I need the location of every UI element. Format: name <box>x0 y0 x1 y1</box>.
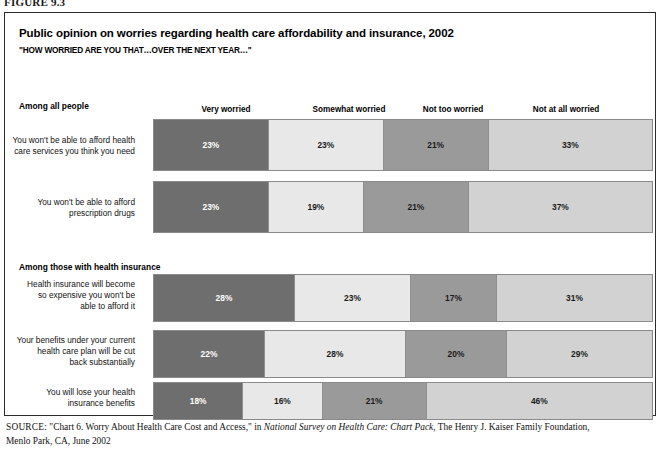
bar-row: 22%28%20%29% <box>153 330 653 378</box>
column-header-0: Very worried <box>201 105 250 114</box>
bar-row-label-line: insurance benefits <box>0 398 135 409</box>
bar-segment-value: 19% <box>307 202 324 212</box>
source-label: SOURCE: <box>6 422 47 432</box>
bar-segment-value: 28% <box>327 349 344 359</box>
bar-row-label: Health insurance will becomeso expensive… <box>0 279 135 313</box>
bar-row-label-line: health care plan will be cut <box>0 346 135 357</box>
bar-row-label-line: Your benefits under your current <box>0 335 135 346</box>
bar-segment-value: 18% <box>190 396 207 406</box>
bar-segment-1: 28% <box>264 331 405 377</box>
bar-segment-3: 37% <box>468 182 652 232</box>
bar-row: 18%16%21%46% <box>153 382 653 420</box>
bar-segment-value: 23% <box>203 202 220 212</box>
bar-segment-2: 21% <box>383 120 488 170</box>
bar-row-label-line: You will lose your health <box>0 387 135 398</box>
bar-segment-value: 23% <box>344 293 361 303</box>
bar-segment-value: 31% <box>566 293 583 303</box>
bar-segment-0: 22% <box>154 331 264 377</box>
bar-segment-value: 23% <box>317 140 334 150</box>
bar-segment-3: 29% <box>506 331 652 377</box>
section-header-insured: Among those with health insurance <box>19 262 160 272</box>
bar-row-label: You won't be able to affordprescription … <box>0 197 135 219</box>
bar-segment-1: 16% <box>242 383 321 419</box>
section-header-all-people: Among all people <box>19 101 89 111</box>
bar-row-label-line: Health insurance will become <box>0 279 135 290</box>
column-header-3: Not at all worried <box>533 105 599 114</box>
bar-row-label-line: care services you think you need <box>0 146 135 157</box>
column-header-2: Not too worried <box>423 105 484 114</box>
column-header-1: Somewhat worried <box>313 105 386 114</box>
bar-segment-0: 18% <box>154 383 242 419</box>
bar-segment-value: 46% <box>531 396 548 406</box>
bar-segment-3: 31% <box>496 275 652 321</box>
source-text-post: , The Henry J. Kaiser Family Foundation, <box>433 422 589 432</box>
bar-segment-value: 20% <box>448 349 465 359</box>
bar-segment-value: 21% <box>366 396 383 406</box>
bar-segment-0: 28% <box>154 275 294 321</box>
bar-segment-2: 21% <box>322 383 426 419</box>
bar-row-label: You won't be able to afford healthcare s… <box>0 135 135 157</box>
bar-segment-value: 23% <box>203 140 220 150</box>
bar-row-label-line: You won't be able to afford <box>0 197 135 208</box>
page-title: Public opinion on worries regarding heal… <box>19 27 454 39</box>
bar-row: 23%23%21%33% <box>153 119 653 171</box>
bar-segment-value: 17% <box>445 293 462 303</box>
bar-segment-value: 16% <box>274 396 291 406</box>
bar-segment-0: 23% <box>154 120 268 170</box>
bar-row-label: You will lose your healthinsurance benef… <box>0 387 135 409</box>
bar-segment-value: 21% <box>407 202 424 212</box>
bar-segment-value: 29% <box>571 349 588 359</box>
bar-segment-3: 46% <box>426 383 652 419</box>
bar-row-label-line: so expensive you won't be <box>0 290 135 301</box>
figure-number: FIGURE 9.3 <box>4 0 65 8</box>
figure-box: Public opinion on worries regarding heal… <box>4 12 656 416</box>
bar-segment-2: 20% <box>405 331 506 377</box>
bar-row-label-line: prescription drugs <box>0 208 135 219</box>
source-text-pre: "Chart 6. Worry About Health Care Cost a… <box>47 422 264 432</box>
bar-row: 28%23%17%31% <box>153 274 653 322</box>
source-note: SOURCE: "Chart 6. Worry About Health Car… <box>6 421 656 448</box>
bar-row-label-line: You won't be able to afford health <box>0 135 135 146</box>
bar-segment-value: 21% <box>427 140 444 150</box>
bar-segment-3: 33% <box>488 120 652 170</box>
bar-segment-1: 23% <box>268 120 383 170</box>
bar-segment-value: 22% <box>201 349 218 359</box>
bar-segment-1: 19% <box>268 182 363 232</box>
chart-subtitle: "HOW WORRIED ARE YOU THAT…OVER THE NEXT … <box>19 45 251 55</box>
source-publication-title: National Survey on Health Care: Chart Pa… <box>264 422 433 432</box>
source-text-line2: Menlo Park, CA, June 2002 <box>6 436 111 446</box>
bar-segment-value: 37% <box>552 202 569 212</box>
bar-row-label-line: able to afford it <box>0 301 135 312</box>
bar-segment-1: 23% <box>294 275 410 321</box>
bar-row: 23%19%21%37% <box>153 181 653 233</box>
bar-segment-2: 21% <box>363 182 468 232</box>
bar-row-label: Your benefits under your currenthealth c… <box>0 335 135 369</box>
bar-segment-value: 33% <box>562 140 579 150</box>
bar-segment-0: 23% <box>154 182 268 232</box>
bar-segment-2: 17% <box>410 275 496 321</box>
bar-segment-value: 28% <box>216 293 233 303</box>
bar-row-label-line: back substantially <box>0 357 135 368</box>
